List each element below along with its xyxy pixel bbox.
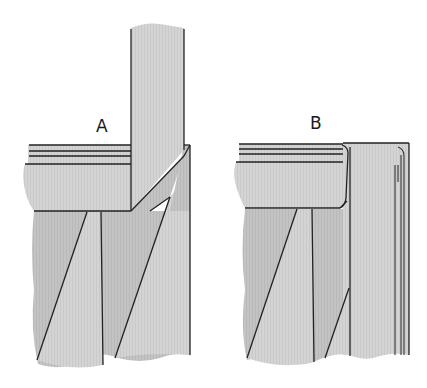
- figure-b: B: [234, 113, 409, 365]
- figure-b-stile: [343, 143, 409, 359]
- figure-a-label: A: [96, 116, 108, 136]
- figure-a-rail: [23, 145, 131, 211]
- figure-b-label: B: [310, 113, 322, 133]
- figure-a: A: [23, 24, 190, 368]
- joinery-diagram: A B: [0, 0, 427, 388]
